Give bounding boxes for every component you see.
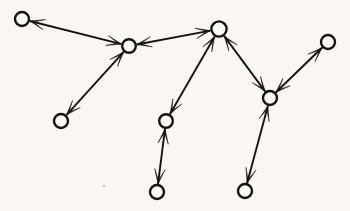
graph-node (54, 114, 68, 128)
graph-node (211, 21, 226, 36)
edges-layer (30, 21, 322, 184)
graph-edge (224, 36, 265, 92)
graph-node (15, 12, 29, 26)
graph-node (159, 114, 173, 128)
graph-canvas (0, 0, 350, 211)
graph-edge (30, 21, 122, 44)
graph-node (263, 91, 277, 105)
graph-edge (170, 36, 215, 114)
arrowhead-icon (203, 36, 215, 52)
graph-edge (247, 106, 268, 184)
graph-node (238, 184, 252, 198)
graph-node (321, 35, 335, 49)
graph-node (122, 39, 136, 53)
graph-node (150, 185, 164, 199)
scan-speck (102, 185, 105, 187)
graph-edge (66, 52, 123, 115)
graph-edge (137, 31, 211, 45)
graph-edge (276, 48, 322, 93)
graph-figure (0, 0, 350, 211)
arrowhead-icon (170, 99, 182, 115)
scan-specks-layer (102, 185, 105, 187)
